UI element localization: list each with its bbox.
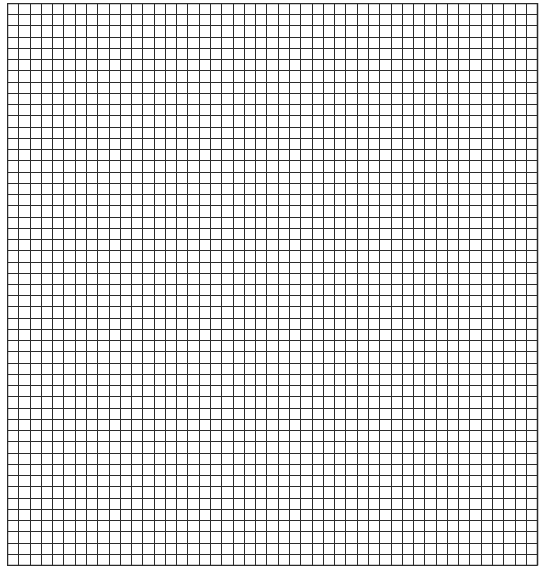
graph-paper-grid — [7, 3, 539, 566]
grid-lines — [7, 3, 539, 566]
